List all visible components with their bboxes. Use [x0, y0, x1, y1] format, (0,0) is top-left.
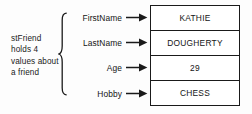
field-row-firstname: FirstName [70, 5, 148, 30]
field-row-lastname: LastName [70, 30, 148, 55]
arrow-right-icon [126, 89, 148, 98]
struct-value-box: KATHIE DOUGHERTY 29 CHESS [150, 5, 240, 106]
field-label: Age [107, 63, 122, 73]
struct-cell-age: 29 [151, 56, 239, 81]
struct-cell-lastname: DOUGHERTY [151, 31, 239, 56]
field-row-hobby: Hobby [70, 81, 148, 106]
cell-value: 29 [190, 63, 200, 73]
field-row-age: Age [70, 55, 148, 80]
cell-value: CHESS [180, 88, 210, 98]
field-label-column: FirstName LastName Age Hobby [70, 5, 148, 106]
curly-brace-icon [58, 12, 67, 96]
arrow-right-icon [126, 13, 148, 22]
struct-cell-firstname: KATHIE [151, 6, 239, 31]
struct-caption: stFriend holds 4 values about a friend [11, 33, 63, 79]
struct-cell-hobby: CHESS [151, 81, 239, 104]
caption-line-2: holds 4 [11, 44, 63, 55]
caption-line-3: values about [11, 56, 63, 67]
arrow-right-icon [126, 38, 148, 47]
struct-diagram: stFriend holds 4 values about a friend F… [0, 0, 252, 114]
arrow-right-icon [126, 63, 148, 72]
cell-value: DOUGHERTY [167, 38, 223, 48]
field-label: LastName [83, 38, 122, 48]
field-label: FirstName [82, 13, 122, 23]
field-label: Hobby [97, 89, 122, 99]
caption-line-1: stFriend [11, 33, 63, 44]
cell-value: KATHIE [179, 13, 210, 23]
caption-line-4: a friend [11, 67, 63, 78]
